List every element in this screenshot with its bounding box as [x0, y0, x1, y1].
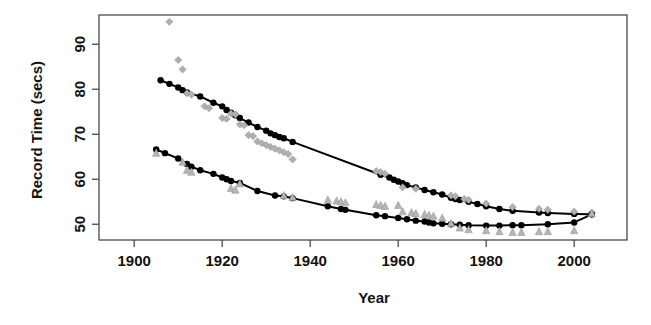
y-tick-label: 50	[71, 216, 88, 233]
data-point-fitted	[325, 203, 331, 209]
y-tick-label: 70	[71, 126, 88, 143]
data-point-fitted	[197, 93, 203, 99]
data-point-fitted	[166, 81, 172, 87]
data-point-fitted	[281, 135, 287, 141]
data-point-fitted	[518, 222, 524, 228]
chart-figure: 5060708090 190019201940196019802000 Reco…	[0, 0, 651, 325]
data-point-fitted	[175, 155, 181, 161]
data-point-fitted	[430, 220, 436, 226]
y-axis-label: Record Time (secs)	[28, 61, 45, 199]
data-point-fitted	[373, 212, 379, 218]
x-tick-label: 2000	[558, 252, 591, 269]
data-point-fitted	[228, 178, 234, 184]
data-point-fitted	[382, 213, 388, 219]
data-point-fitted	[571, 219, 577, 225]
data-point-fitted	[157, 77, 163, 83]
data-point-fitted	[289, 139, 295, 145]
data-point-fitted	[430, 189, 436, 195]
data-point-fitted	[474, 201, 480, 207]
data-point-fitted	[509, 222, 515, 228]
data-point-fitted	[210, 171, 216, 177]
data-point-fitted	[210, 100, 216, 106]
data-point-fitted	[342, 207, 348, 213]
y-tick-label: 60	[71, 171, 88, 188]
data-point-fitted	[413, 217, 419, 223]
data-point-fitted	[545, 221, 551, 227]
data-point-fitted	[162, 150, 168, 156]
x-tick-label: 1920	[206, 252, 239, 269]
data-point-fitted	[421, 187, 427, 193]
x-tick-label: 1980	[470, 252, 503, 269]
record-time-scatter-plot: 5060708090 190019201940196019802000 Reco…	[0, 0, 651, 325]
figure-background	[0, 0, 651, 325]
x-tick-label: 1900	[118, 252, 151, 269]
data-point-fitted	[254, 124, 260, 130]
data-point-fitted	[404, 216, 410, 222]
y-tick-label: 90	[71, 36, 88, 53]
data-point-fitted	[197, 167, 203, 173]
data-point-fitted	[272, 192, 278, 198]
data-point-fitted	[439, 221, 445, 227]
y-tick-label: 80	[71, 81, 88, 98]
data-point-fitted	[496, 206, 502, 212]
data-point-fitted	[254, 188, 260, 194]
x-axis-label: Year	[358, 289, 390, 306]
x-tick-label: 1940	[294, 252, 327, 269]
data-point-fitted	[395, 215, 401, 221]
x-tick-label: 1960	[382, 252, 415, 269]
data-point-fitted	[439, 191, 445, 197]
